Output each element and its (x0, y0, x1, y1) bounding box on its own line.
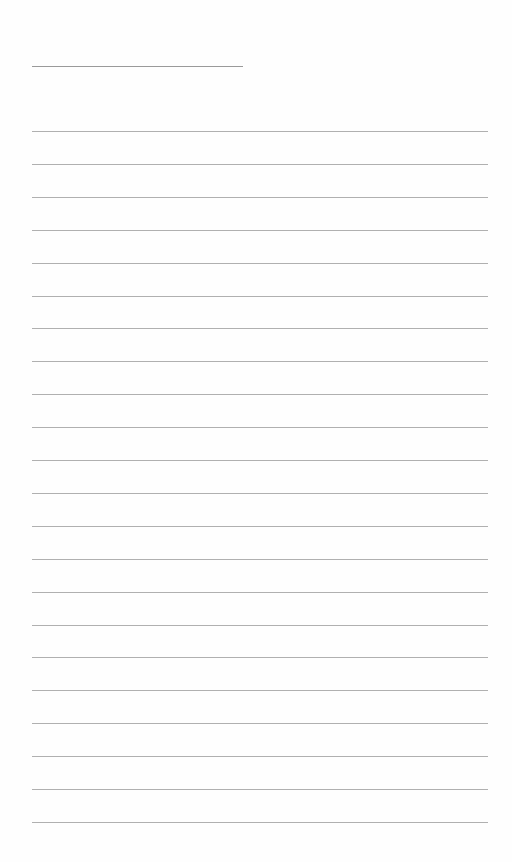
ruled-line (32, 394, 488, 395)
ruled-line (32, 789, 488, 790)
ruled-line (32, 493, 488, 494)
ruled-line (32, 756, 488, 757)
title-line (32, 66, 243, 67)
lined-paper (0, 0, 512, 862)
ruled-line (32, 361, 488, 362)
ruled-line (32, 559, 488, 560)
ruled-line (32, 526, 488, 527)
ruled-line (32, 197, 488, 198)
ruled-line (32, 460, 488, 461)
ruled-line (32, 131, 488, 132)
ruled-line (32, 822, 488, 823)
ruled-line (32, 723, 488, 724)
ruled-line (32, 230, 488, 231)
ruled-line (32, 263, 488, 264)
ruled-line (32, 328, 488, 329)
ruled-line (32, 296, 488, 297)
ruled-line (32, 164, 488, 165)
ruled-line (32, 427, 488, 428)
ruled-line (32, 592, 488, 593)
ruled-line (32, 625, 488, 626)
ruled-line (32, 690, 488, 691)
ruled-line (32, 657, 488, 658)
